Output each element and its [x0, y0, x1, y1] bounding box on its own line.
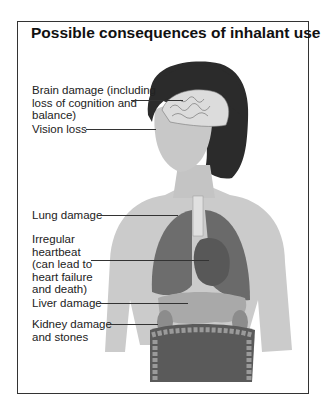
- trachea: [193, 196, 203, 236]
- leader-vision: [86, 129, 156, 130]
- label-brain-damage: Brain damage (including loss of cognitio…: [32, 84, 156, 122]
- label-irregular-heartbeat: Irregular heartbeat (can lead to heart f…: [32, 233, 93, 296]
- leader-liver: [98, 303, 188, 304]
- leader-brain: [131, 100, 183, 101]
- leader-lung: [98, 215, 178, 216]
- label-lung-damage: Lung damage: [32, 209, 102, 222]
- diagram-title: Possible consequences of inhalant use: [31, 24, 320, 42]
- label-vision-loss: Vision loss: [32, 123, 87, 136]
- label-kidney-damage: Kidney damage and stones: [32, 318, 112, 343]
- leader-heart: [91, 260, 209, 261]
- label-liver-damage: Liver damage: [32, 297, 102, 310]
- leader-kidney: [108, 324, 158, 325]
